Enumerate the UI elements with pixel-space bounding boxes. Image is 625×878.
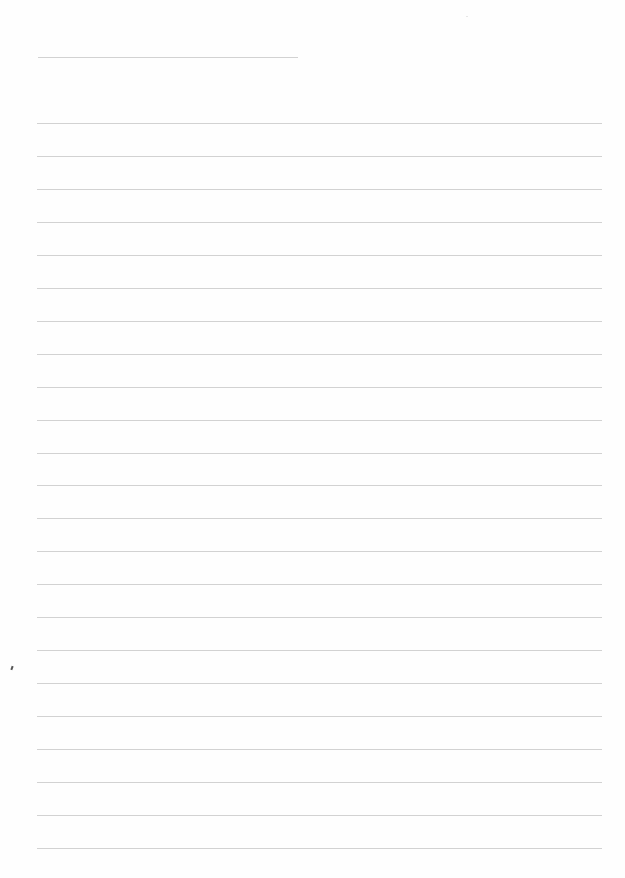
ruled-line xyxy=(37,584,602,585)
lined-paper-sheet xyxy=(0,0,625,878)
ruled-line xyxy=(37,453,602,454)
ruled-line xyxy=(37,387,602,388)
ruled-line xyxy=(37,485,602,486)
ruled-line xyxy=(37,815,602,816)
ruled-line xyxy=(37,716,602,717)
ruled-line xyxy=(37,518,602,519)
title-line xyxy=(38,57,298,58)
ruled-line xyxy=(37,848,602,849)
ruled-line xyxy=(37,288,602,289)
ruled-line xyxy=(37,321,602,322)
ruled-line xyxy=(37,650,602,651)
ruled-line xyxy=(37,189,602,190)
ruled-line xyxy=(37,354,602,355)
ruled-line xyxy=(37,123,602,124)
ruled-line xyxy=(37,617,602,618)
paper-speck xyxy=(466,16,468,17)
ruled-line xyxy=(37,782,602,783)
ruled-line xyxy=(37,255,602,256)
ruled-line xyxy=(37,222,602,223)
pen-mark xyxy=(10,666,13,670)
ruled-line xyxy=(37,420,602,421)
ruled-line xyxy=(37,683,602,684)
ruled-line xyxy=(37,156,602,157)
ruled-line xyxy=(37,749,602,750)
ruled-line xyxy=(37,551,602,552)
